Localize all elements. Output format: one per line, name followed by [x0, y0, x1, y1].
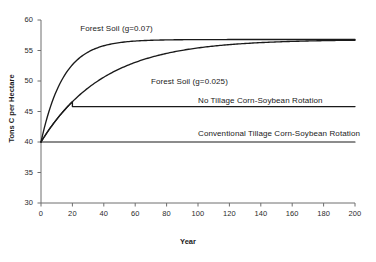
x-axis-title: Year	[0, 237, 376, 246]
x-tick-label: 140	[246, 209, 276, 218]
series-label: Forest Soil (g=0.025)	[151, 77, 228, 86]
y-tick-label: 35	[7, 168, 33, 177]
x-axis-ticks	[41, 203, 355, 207]
series-label: Conventional Tillage Corn-Soybean Rotati…	[198, 129, 360, 138]
chart-figure: Tons C per Hectare Year 3035404550556002…	[0, 0, 376, 262]
y-tick-label: 50	[7, 76, 33, 85]
x-tick-label: 100	[183, 209, 213, 218]
series-lines	[41, 40, 355, 142]
x-tick-label: 60	[120, 209, 150, 218]
x-tick-label: 200	[340, 209, 370, 218]
series-label: Forest Soil (g=0.07)	[80, 24, 152, 33]
y-tick-label: 60	[7, 15, 33, 24]
x-tick-label: 80	[152, 209, 182, 218]
x-tick-label: 120	[214, 209, 244, 218]
y-tick-label: 30	[7, 198, 33, 207]
y-tick-label: 45	[7, 107, 33, 116]
y-axis-ticks	[38, 20, 42, 203]
series-line	[41, 40, 355, 142]
x-tick-label: 20	[57, 209, 87, 218]
y-tick-label: 40	[7, 137, 33, 146]
x-tick-label: 160	[277, 209, 307, 218]
x-tick-label: 40	[89, 209, 119, 218]
y-tick-label: 55	[7, 46, 33, 55]
series-line	[41, 40, 355, 142]
series-label: No Tillage Corn-Soybean Rotation	[198, 96, 323, 105]
x-tick-label: 180	[309, 209, 339, 218]
x-tick-label: 0	[26, 209, 56, 218]
